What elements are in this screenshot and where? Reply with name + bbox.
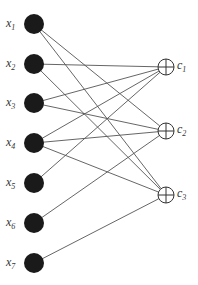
input-label: x5 [5, 175, 15, 191]
input-label: x2 [5, 56, 15, 72]
output-label: c1 [177, 58, 186, 74]
sum-node-c1: c1 [158, 58, 186, 75]
edge-x2-c1 [34, 64, 158, 67]
edges-group [34, 24, 161, 263]
sum-node-c3: c3 [158, 186, 186, 203]
edge-x7-c3 [34, 199, 159, 263]
filled-circle-icon [24, 54, 44, 74]
filled-circle-icon [24, 14, 44, 34]
output-label: c3 [177, 186, 186, 202]
input-node-x2: x2 [5, 54, 44, 74]
input-label: x4 [5, 135, 15, 151]
input-node-x5: x5 [5, 173, 44, 193]
filled-circle-icon [24, 133, 44, 153]
output-label: c2 [177, 122, 186, 138]
input-node-x1: x1 [5, 14, 44, 34]
input-label: x1 [5, 16, 15, 32]
sum-node-c2: c2 [158, 122, 186, 139]
input-node-x4: x4 [5, 133, 44, 153]
input-label: x6 [5, 215, 15, 231]
edge-x6-c2 [34, 136, 159, 223]
edge-x4-c3 [34, 143, 159, 192]
filled-circle-icon [24, 173, 44, 193]
filled-circle-icon [24, 253, 44, 273]
filled-circle-icon [24, 93, 44, 113]
edge-x5-c1 [34, 72, 160, 183]
sum-nodes-group: c1c2c3 [158, 58, 186, 203]
input-label: x3 [5, 95, 15, 111]
input-node-x6: x6 [5, 213, 44, 233]
input-label: x7 [5, 255, 16, 271]
edge-x1-c2 [34, 24, 160, 126]
input-node-x7: x7 [5, 253, 44, 273]
network-diagram: x1x2x3x4x5x6x7 c1c2c3 [0, 0, 198, 285]
filled-circle-icon [24, 213, 44, 233]
input-nodes-group: x1x2x3x4x5x6x7 [5, 14, 44, 273]
input-node-x3: x3 [5, 93, 44, 113]
edge-x4-c2 [34, 132, 158, 143]
edge-x2-c3 [34, 64, 160, 189]
